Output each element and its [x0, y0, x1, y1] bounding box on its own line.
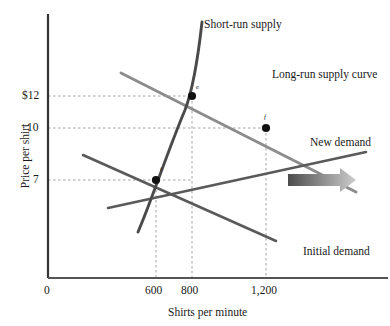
y-tick-7: 7 — [33, 174, 39, 186]
x-tick-800: 800 — [181, 285, 198, 297]
point-f — [262, 124, 270, 132]
point-i — [152, 176, 160, 184]
guide-lines — [48, 96, 266, 180]
curve-initial-demand — [83, 155, 276, 241]
y-tick-12: $12 — [22, 90, 39, 102]
x-tick-0: 0 — [44, 285, 50, 297]
x-axis-title: Shirts per minute — [168, 307, 247, 319]
supply-demand-chart — [0, 0, 390, 326]
label-long-run-supply: Long-run supply curve — [272, 69, 377, 81]
y-axis-title: Price per shirt — [19, 110, 31, 202]
point-e — [188, 92, 196, 100]
point-label-f: f — [264, 114, 266, 121]
x-tick-1200: 1,200 — [251, 285, 277, 297]
point-label-e: e — [196, 84, 199, 91]
guide-lines-vertical — [156, 96, 266, 278]
x-tick-600: 600 — [145, 285, 162, 297]
label-new-demand: New demand — [310, 137, 371, 149]
label-initial-demand: Initial demand — [303, 246, 370, 258]
point-label-i: i — [160, 166, 162, 173]
label-short-run-supply: Short-run supply — [204, 19, 282, 31]
